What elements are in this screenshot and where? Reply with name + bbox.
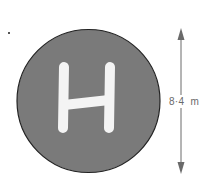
dimension-label: 8·4 m [168,95,200,108]
stray-mark [8,32,10,34]
